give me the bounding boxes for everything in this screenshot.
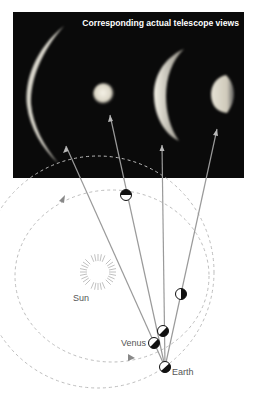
orbit-direction-arrow-icon bbox=[59, 195, 65, 203]
venus-position-near-2 bbox=[149, 338, 160, 349]
telescope-view-panel: Corresponding actual telescope views bbox=[13, 12, 244, 178]
venus-view-full bbox=[93, 83, 115, 105]
orbits bbox=[0, 156, 214, 388]
panel-title: Corresponding actual telescope views bbox=[82, 18, 239, 28]
earth-label: Earth bbox=[172, 367, 194, 377]
sight-line-thin-crescent bbox=[66, 146, 165, 367]
panel-background bbox=[13, 12, 244, 178]
earth-orbit bbox=[0, 156, 214, 388]
sun-icon bbox=[80, 254, 116, 290]
venus-position-right bbox=[176, 289, 187, 300]
venus-phases-diagram: Corresponding actual telescope views Sun bbox=[0, 0, 255, 401]
venus-position-near-1 bbox=[158, 326, 169, 337]
earth-icon bbox=[160, 362, 171, 373]
sun-label: Sun bbox=[73, 293, 89, 303]
venus-position-top bbox=[121, 190, 132, 201]
venus-label: Venus bbox=[121, 338, 147, 348]
venus-orbit bbox=[15, 190, 209, 362]
